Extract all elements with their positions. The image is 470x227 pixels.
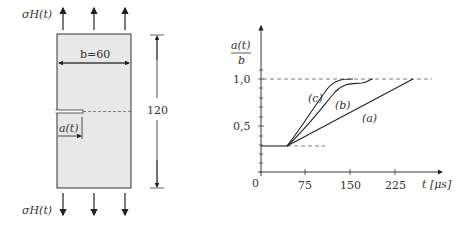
y-axis-label-numerator: a(t): [231, 39, 251, 52]
y-tick-1-0: 1,0: [233, 73, 251, 86]
y-tick-0-5: 0,5: [233, 120, 251, 133]
curve-b: [287, 79, 373, 146]
curve-label-a: (a): [362, 112, 377, 125]
height-label: 120: [147, 104, 168, 117]
x-tick-0: 0: [252, 177, 259, 190]
top-load-arrows: [63, 8, 125, 30]
load-label-bottom: σH(t): [22, 204, 52, 217]
x-tick-225: 225: [385, 179, 406, 192]
curve-label-b: (b): [335, 99, 351, 112]
figure: σH(t) σH(t) b=60 120 a(t): [0, 0, 470, 227]
load-label-top: σH(t): [22, 8, 52, 21]
x-tick-75: 75: [298, 179, 312, 192]
curve-a: [287, 79, 413, 146]
width-label: b=60: [80, 48, 110, 61]
bottom-load-arrows: [63, 193, 125, 215]
x-axis-label: t [μs]: [422, 178, 452, 191]
y-axis-label-denominator: b: [238, 54, 245, 67]
curve-label-c: (c): [308, 92, 323, 105]
x-tick-150: 150: [340, 179, 361, 192]
crack-label: a(t): [59, 122, 79, 135]
